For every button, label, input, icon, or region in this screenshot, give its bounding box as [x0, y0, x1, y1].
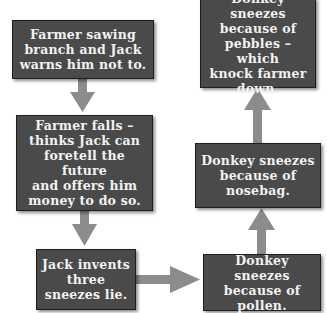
arrow-down-icon	[70, 78, 95, 112]
node-jack-invents-lie: Jack invents three sneezes lie.	[36, 249, 136, 310]
arrow-up-icon	[244, 88, 271, 143]
node-farmer-falls: Farmer falls – thinks Jack can foretell …	[16, 115, 153, 211]
arrow-down-icon	[72, 210, 97, 246]
arrow-up-icon	[248, 208, 275, 255]
node-farmer-sawing: Farmer sawing branch and Jack warns him …	[12, 20, 154, 79]
arrow-right-icon	[135, 266, 200, 293]
node-sneeze-nosebag: Donkey sneezes because of nosebag.	[195, 143, 321, 208]
node-sneeze-pebbles: Donkey sneezes because of pebbles – whic…	[200, 0, 316, 88]
node-sneeze-pollen: Donkey sneezes because of pollen.	[203, 254, 321, 311]
